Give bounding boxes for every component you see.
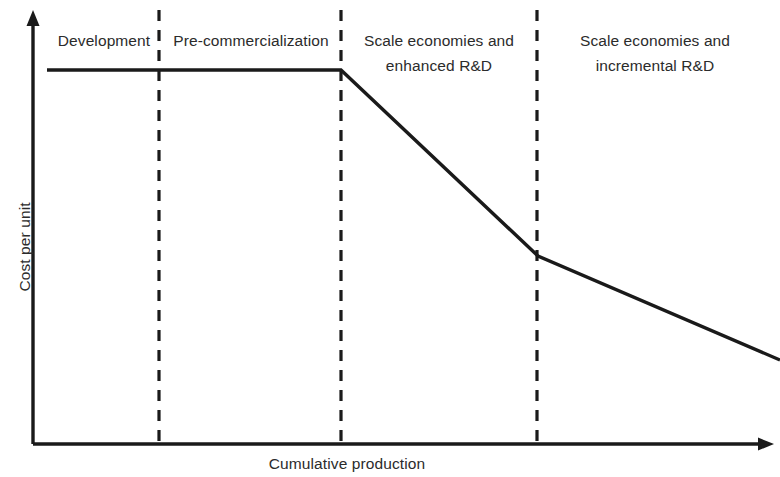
phase-label-scale-economies-enhanced-rd: Scale economies and enhanced R&D: [346, 28, 532, 78]
experience-curve-figure: Development Pre-commercialization Scale …: [0, 0, 780, 477]
experience-curve-line: [47, 70, 780, 360]
phase-label-scale-economies-incremental-rd: Scale economies and incremental R&D: [548, 28, 762, 78]
y-axis-title: Cost per unit: [16, 187, 34, 307]
x-axis: [33, 438, 774, 451]
phase-label-pre-commercialization: Pre-commercialization: [163, 28, 339, 53]
x-axis-title: Cumulative production: [187, 455, 507, 473]
phase-label-development: Development: [40, 28, 168, 53]
